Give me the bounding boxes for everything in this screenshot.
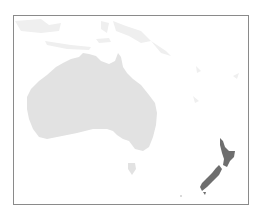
nz-north-island <box>220 138 235 167</box>
australia[interactable] <box>27 53 157 151</box>
nz-stewart-island <box>203 192 206 195</box>
nz-south-island <box>200 165 222 191</box>
tasmania[interactable] <box>128 163 136 175</box>
map-frame <box>13 15 249 205</box>
small-island <box>180 195 181 196</box>
new-zealand[interactable] <box>200 138 235 195</box>
map-canvas <box>14 16 249 205</box>
